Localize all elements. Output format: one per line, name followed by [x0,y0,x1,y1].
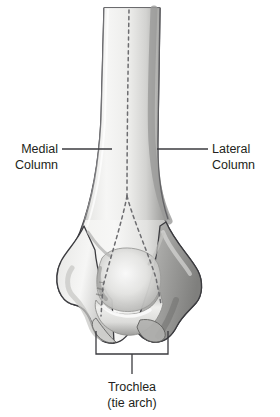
trochlea-label-line2: (tie arch) [107,396,156,410]
lateral-label-line1: Lateral [212,142,250,156]
medial-label-line2: Column [15,158,58,172]
label-medial-column: Medial Column [15,142,58,172]
label-lateral-column: Lateral Column [212,142,255,172]
bone-illustration [57,8,202,343]
distal-humerus-figure: Medial Column Lateral Column Trochlea (t… [0,0,280,417]
lateral-label-line2: Column [212,158,255,172]
medial-label-line1: Medial [21,142,58,156]
label-trochlea: Trochlea (tie arch) [107,380,156,410]
trochlea-label-line1: Trochlea [108,380,156,394]
olecranon-fossa [97,248,161,312]
